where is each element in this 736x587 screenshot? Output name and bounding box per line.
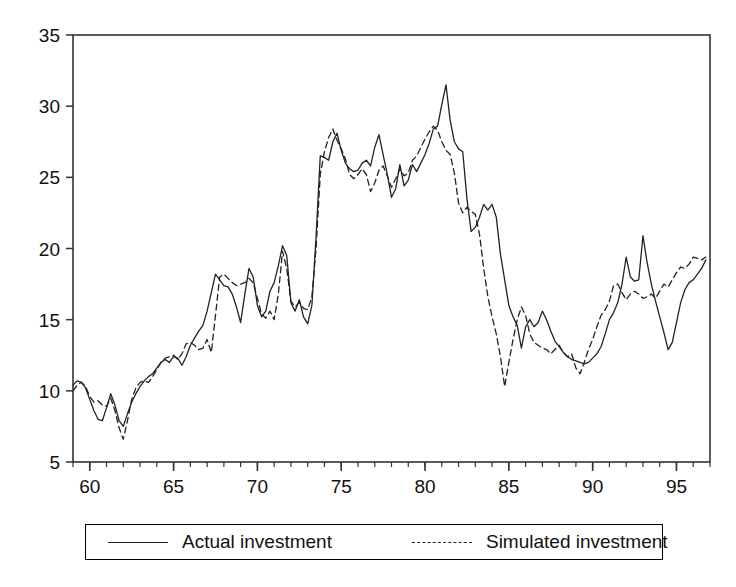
legend-label-simulated-investment: Simulated investment	[486, 531, 668, 553]
plot-area-border	[73, 35, 710, 462]
legend-swatch-solid-line-icon	[108, 536, 168, 548]
svg-text:10: 10	[39, 381, 60, 402]
svg-text:60: 60	[79, 476, 100, 497]
x-axis-major-ticks	[90, 462, 677, 471]
x-axis-tick-labels: 6065707580859095	[79, 476, 687, 497]
y-axis-tick-labels: 5101520253035	[39, 25, 60, 473]
svg-text:80: 80	[414, 476, 435, 497]
svg-text:75: 75	[331, 476, 352, 497]
legend-swatch-dashed-line-icon	[412, 536, 472, 548]
y-axis-ticks	[66, 35, 73, 462]
svg-text:15: 15	[39, 310, 60, 331]
svg-text:30: 30	[39, 96, 60, 117]
svg-text:25: 25	[39, 167, 60, 188]
investment-line-chart: 5101520253035 6065707580859095 Actual in…	[0, 0, 736, 587]
svg-text:70: 70	[247, 476, 268, 497]
legend-label-actual-investment: Actual investment	[182, 531, 332, 553]
svg-text:5: 5	[49, 452, 60, 473]
chart-canvas: 5101520253035 6065707580859095	[0, 0, 736, 587]
legend-item-actual-investment: Actual investment	[108, 531, 332, 553]
svg-text:85: 85	[498, 476, 519, 497]
svg-text:95: 95	[666, 476, 687, 497]
chart-legend: Actual investment Simulated investment	[85, 524, 663, 560]
svg-text:20: 20	[39, 239, 60, 260]
svg-text:90: 90	[582, 476, 603, 497]
legend-item-simulated-investment: Simulated investment	[412, 531, 668, 553]
svg-text:65: 65	[163, 476, 184, 497]
svg-text:35: 35	[39, 25, 60, 46]
